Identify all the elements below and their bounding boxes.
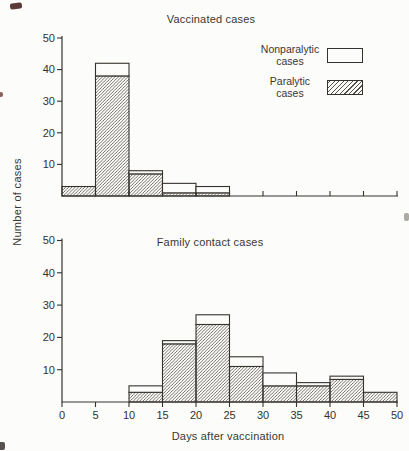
bar-nonparalytic-segment — [196, 315, 230, 325]
x-tick-label: 25 — [223, 409, 235, 421]
bar-nonparalytic-segment — [297, 383, 331, 386]
bar-nonparalytic-segment — [263, 373, 297, 386]
x-tick-label: 20 — [190, 409, 202, 421]
x-tick-label: 50 — [391, 409, 403, 421]
legend: Nonparalytic cases Paralytic cases — [258, 44, 363, 99]
y-tick-label: 10 — [43, 364, 55, 376]
figure-histograms: 1020304050102030405005101520253035404550… — [0, 0, 409, 451]
y-tick-label: 30 — [43, 299, 55, 311]
legend-label-line2: cases — [276, 55, 303, 67]
legend-label-line1: Nonparalytic — [261, 43, 319, 55]
x-tick-label: 30 — [257, 409, 269, 421]
y-tick-label: 50 — [43, 234, 55, 246]
y-tick-label: 10 — [43, 158, 55, 170]
bar-nonparalytic-segment — [330, 376, 364, 379]
legend-label-paralytic: Paralytic cases — [258, 76, 322, 99]
bar-paralytic-segment — [263, 386, 297, 402]
bar-paralytic-segment — [96, 76, 130, 196]
x-axis-label: Days after vaccination — [172, 430, 285, 442]
y-tick-label: 40 — [43, 267, 55, 279]
scan-artifact — [404, 213, 409, 221]
y-tick-label: 20 — [43, 127, 55, 139]
y-axis-label: Number of cases — [11, 158, 23, 246]
legend-label-line1: Paralytic — [270, 75, 310, 87]
y-tick-label: 40 — [43, 63, 55, 75]
bar-nonparalytic-segment — [163, 183, 197, 192]
bar-paralytic-segment — [330, 379, 364, 402]
legend-swatch-nonparalytic — [327, 48, 363, 63]
y-tick-label: 20 — [43, 331, 55, 343]
bar-nonparalytic-segment — [163, 341, 197, 344]
legend-label-line2: cases — [276, 87, 303, 99]
legend-swatch-paralytic — [327, 80, 363, 95]
bar-paralytic-segment — [163, 344, 197, 402]
y-tick-label: 30 — [43, 95, 55, 107]
bar-paralytic-segment — [364, 392, 398, 402]
x-tick-label: 45 — [357, 409, 369, 421]
bar-paralytic-segment — [129, 174, 163, 196]
bar-paralytic-segment — [297, 386, 331, 402]
scan-artifact — [0, 442, 5, 450]
bar-nonparalytic-segment — [129, 386, 163, 392]
bar-paralytic-segment — [230, 366, 264, 402]
x-tick-label: 5 — [92, 409, 98, 421]
legend-item-paralytic: Paralytic cases — [258, 76, 363, 99]
legend-item-nonparalytic: Nonparalytic cases — [258, 44, 363, 67]
bar-nonparalytic-segment — [230, 357, 264, 367]
bar-paralytic-segment — [196, 324, 230, 402]
bar-paralytic-segment — [129, 392, 163, 402]
scan-artifact — [0, 92, 3, 97]
bar-nonparalytic-segment — [129, 171, 163, 174]
chart-title-vaccinated: Vaccinated cases — [167, 13, 256, 25]
x-tick-label: 35 — [290, 409, 302, 421]
bar-nonparalytic-segment — [96, 63, 130, 76]
x-tick-label: 10 — [123, 409, 135, 421]
y-tick-label: 50 — [43, 32, 55, 44]
bar-paralytic-segment — [62, 187, 96, 196]
legend-label-nonparalytic: Nonparalytic cases — [258, 44, 322, 67]
x-tick-label: 15 — [156, 409, 168, 421]
x-tick-label: 0 — [59, 409, 65, 421]
chart-title-family-contact: Family contact cases — [157, 236, 264, 248]
x-tick-label: 40 — [324, 409, 336, 421]
bar-nonparalytic-segment — [196, 187, 230, 193]
